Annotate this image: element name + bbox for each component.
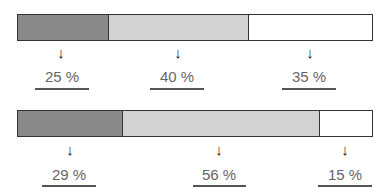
bar2-segment-2 [122,111,319,136]
arrow-down-icon: ↓ [174,45,182,60]
arrow-down-icon: ↓ [57,45,65,60]
bar1-label-3: 35 % [292,69,326,84]
bar1-underline-3 [282,88,336,90]
arrow-down-icon: ↓ [66,142,74,157]
bar2-underline-3 [318,185,372,187]
bar2-label-3: 15 % [328,167,362,182]
bar1-label-1: 25 % [45,69,79,84]
bar2-segment-3 [319,111,372,136]
bar1-label-2: 40 % [160,69,194,84]
stacked-bar-1 [17,14,373,41]
bar2-label-1: 29 % [52,167,86,182]
bar1-segment-1 [18,15,108,40]
arrow-down-icon: ↓ [215,142,223,157]
bar2-underline-2 [193,185,246,187]
stacked-bar-2 [17,110,373,137]
bar1-underline-2 [150,88,204,90]
bar2-segment-1 [18,111,122,136]
bar1-underline-1 [35,88,89,90]
arrow-down-icon: ↓ [341,142,349,157]
bar1-segment-2 [108,15,248,40]
bar2-underline-1 [42,185,96,187]
arrow-down-icon: ↓ [306,45,314,60]
bar1-segment-3 [248,15,372,40]
bar2-label-2: 56 % [202,167,236,182]
